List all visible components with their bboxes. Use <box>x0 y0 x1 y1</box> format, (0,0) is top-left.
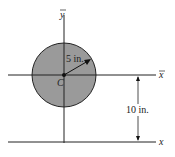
x-label: x <box>158 136 164 147</box>
radius-label: 5 in. <box>66 53 84 64</box>
y-bar-label: y <box>59 9 65 20</box>
dimension-arrow-top <box>136 76 140 81</box>
distance-label: 10 in. <box>126 104 149 115</box>
dimension-arrow-bottom <box>136 136 140 141</box>
centroid-label: C <box>57 77 64 88</box>
circle-area-diagram: 10 in. 5 in. C y x x <box>0 0 175 157</box>
